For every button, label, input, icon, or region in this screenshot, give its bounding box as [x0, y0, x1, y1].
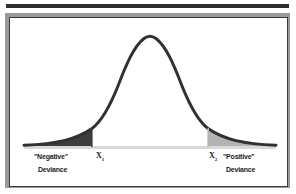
figure-panel: X1 X2 "Negative" Deviance "Positive" Dev… — [9, 17, 288, 187]
negative-deviance-label-line1: "Negative" — [34, 152, 68, 161]
bell-curve-line — [24, 36, 276, 145]
plot-area: X1 X2 "Negative" Deviance "Positive" Dev… — [10, 18, 289, 188]
positive-deviance-label-line2: Deviance — [226, 165, 255, 174]
top-rule-divider — [6, 4, 289, 8]
baseline-axis — [24, 146, 276, 149]
figure-root: X1 X2 "Negative" Deviance "Positive" Dev… — [0, 0, 296, 194]
normal-distribution-chart — [10, 18, 289, 188]
axis-label-x1-subscript: 1 — [102, 157, 105, 162]
axis-label-x1: X1 — [96, 151, 104, 162]
axis-label-x2-subscript: 2 — [215, 157, 218, 162]
negative-deviance-label-line2: Deviance — [38, 165, 67, 174]
cutoff-line-x2 — [207, 128, 209, 147]
axis-label-x2: X2 — [209, 151, 217, 162]
positive-deviance-label-line1: "Positive" — [223, 152, 254, 161]
cutoff-line-x1 — [91, 128, 93, 147]
